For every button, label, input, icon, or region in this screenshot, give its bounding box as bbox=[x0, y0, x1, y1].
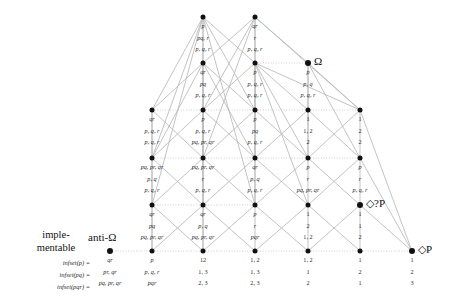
lattice-node-r5c4[interactable] bbox=[358, 249, 363, 254]
lattice-diagram: ppq, rp, q, rqrrp, q, rqrpqp, q, rpp, q,… bbox=[0, 0, 456, 304]
implementable-title-line2: mentable bbox=[22, 242, 90, 255]
node-cell-line: p bbox=[273, 66, 343, 78]
lattice-node-r2c4[interactable] bbox=[358, 108, 363, 113]
lattice-node-r2c3[interactable] bbox=[306, 108, 311, 113]
node-cell-line: 2 bbox=[325, 231, 395, 243]
node-cell-line: p, q, r bbox=[220, 43, 290, 55]
node-cell-line: 2 bbox=[325, 125, 395, 137]
lattice-node-r5c2[interactable] bbox=[253, 249, 258, 254]
lattice-node-r3c0[interactable] bbox=[150, 156, 155, 161]
lattice-node-r2c0[interactable] bbox=[150, 108, 155, 113]
lattice-node-r4c3[interactable] bbox=[306, 203, 311, 208]
lattice-node-r5c1[interactable] bbox=[201, 249, 206, 254]
node-cell-line: 2 bbox=[325, 136, 395, 148]
node-cell-line: p, q, r bbox=[325, 184, 395, 196]
row-label-infset-pq: infset(pq) = bbox=[14, 271, 90, 278]
node-cell-line: r bbox=[325, 173, 395, 185]
node-cells-r0c2: qrrp, q, r bbox=[220, 20, 290, 55]
row-label-infset-p: infset(p) = bbox=[14, 259, 90, 266]
node-marker-r5c-1: anti-Ω bbox=[88, 231, 116, 243]
node-cell-line: p bbox=[325, 161, 395, 173]
node-cells-r2c4: 122 bbox=[325, 113, 395, 148]
lattice-node-r0c2[interactable] bbox=[253, 15, 258, 20]
lattice-node-r3c3[interactable] bbox=[306, 156, 311, 161]
node-cell-line: 1 bbox=[325, 113, 395, 125]
node-cell-line: 2 bbox=[377, 266, 447, 278]
lattice-node-r4c1[interactable] bbox=[201, 203, 206, 208]
node-cells-r5c5: 123 bbox=[377, 254, 447, 289]
lattice-node-r5c3[interactable] bbox=[306, 249, 311, 254]
node-cell-line: qr bbox=[220, 20, 290, 32]
lattice-node-r1c2[interactable] bbox=[253, 61, 258, 66]
row-label-infset-pqr: infset(pqr) = bbox=[14, 283, 90, 290]
lattice-node-r4c2[interactable] bbox=[253, 203, 258, 208]
lattice-node-r4c0[interactable] bbox=[150, 203, 155, 208]
lattice-node-r3c2[interactable] bbox=[253, 156, 258, 161]
node-cell-line: 1 bbox=[377, 254, 447, 266]
node-cell-line: 1 bbox=[325, 220, 395, 232]
implementable-title-line1: imple- bbox=[25, 229, 87, 242]
node-cells-r4c4: 112 bbox=[325, 208, 395, 243]
node-cells-r1c3: pp, qp, q, r bbox=[273, 66, 343, 101]
lattice-node-r0c1[interactable] bbox=[201, 15, 206, 20]
node-cell-line: 1 bbox=[325, 208, 395, 220]
node-cells-r3c4: prp, q, r bbox=[325, 161, 395, 196]
node-cell-line: r bbox=[220, 32, 290, 44]
node-cell-line: p, q, r bbox=[273, 89, 343, 101]
lattice-node-r2c1[interactable] bbox=[201, 108, 206, 113]
lattice-node-r3c4[interactable] bbox=[358, 156, 363, 161]
lattice-node-r2c2[interactable] bbox=[253, 108, 258, 113]
lattice-node-r3c1[interactable] bbox=[201, 156, 206, 161]
lattice-node-r1c1[interactable] bbox=[201, 61, 206, 66]
node-cell-line: 3 bbox=[377, 277, 447, 289]
node-cell-line: p, q bbox=[273, 78, 343, 90]
lattice-node-r5c0[interactable] bbox=[150, 249, 155, 254]
